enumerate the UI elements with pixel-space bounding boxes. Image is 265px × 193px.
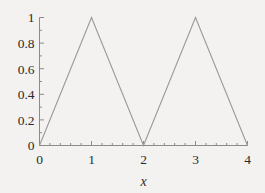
x-tick-label-3: 3 xyxy=(192,152,199,167)
triangle-wave-plot: 00.20.40.60.81 01234 x xyxy=(0,0,265,193)
chart-figure: 00.20.40.60.81 01234 x xyxy=(0,0,265,193)
y-tick-label-5: 1 xyxy=(28,10,35,25)
y-tick-label-1: 0.2 xyxy=(18,113,35,128)
x-tick-label-4: 4 xyxy=(244,152,251,167)
y-tick-label-0: 0 xyxy=(28,138,35,153)
x-axis-title: x xyxy=(139,174,147,189)
x-tick-label-0: 0 xyxy=(36,152,43,167)
x-tick-label-2: 2 xyxy=(140,152,147,167)
y-tick-label-4: 0.8 xyxy=(18,36,35,51)
y-tick-label-3: 0.6 xyxy=(18,62,35,77)
y-tick-label-2: 0.4 xyxy=(18,87,35,102)
x-tick-label-1: 1 xyxy=(88,152,95,167)
